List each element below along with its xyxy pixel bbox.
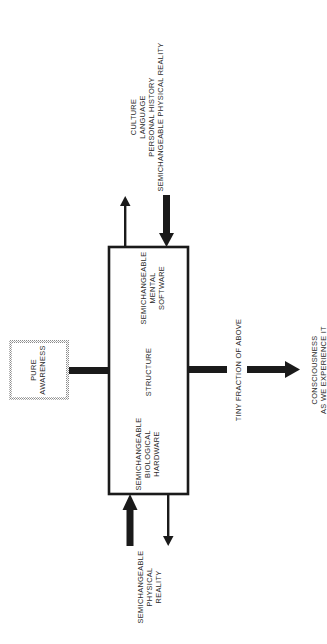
bottom-output-arrow <box>163 494 174 546</box>
top-input-arrow <box>159 195 174 247</box>
top-input-line-1: CULTURE <box>129 99 138 135</box>
consciousness-label: CONSCIOUSNESS AS WE EXPERIENCE IT <box>310 326 327 414</box>
top-input-line-3: PERSONAL HISTORY <box>147 77 156 156</box>
pure-awareness-line-2: AWARENESS <box>38 345 47 394</box>
mental-software-line-1: SEMICHANGEABLE <box>139 252 148 325</box>
bottom-input-line-3: REALITY <box>154 571 163 604</box>
bottom-input-line-1: SEMICHANGEABLE <box>136 551 145 624</box>
bottom-input-arrow <box>123 494 138 546</box>
bottom-input-label: SEMICHANGEABLE PHYSICAL REALITY <box>136 551 163 624</box>
top-input-line-2: LANGUAGE <box>138 95 147 138</box>
tiny-fraction-label: TINY FRACTION OF ABOVE <box>234 319 243 422</box>
mental-software-line-2: MENTAL <box>148 272 157 303</box>
output-stem <box>188 366 227 373</box>
biological-hardware-line-1: SEMICHANGEABLE <box>134 418 143 491</box>
biological-hardware-line-2: BIOLOGICAL <box>143 430 152 478</box>
consciousness-line-1: CONSCIOUSNESS <box>310 336 319 405</box>
consciousness-arrow <box>247 361 300 378</box>
biological-hardware-line-3: HARDWARE <box>152 431 161 476</box>
bottom-input-line-2: PHYSICAL <box>145 568 154 607</box>
structure-label: STRUCTURE <box>144 348 153 396</box>
pure-awareness-line-1: PURE <box>29 359 38 381</box>
top-input-label: CULTURE LANGUAGE PERSONAL HISTORY SEMICH… <box>129 42 165 191</box>
mental-software-line-3: SOFTWARE <box>157 266 166 310</box>
top-output-arrow <box>120 196 131 247</box>
pure-awareness-box: PURE AWARENESS <box>9 340 69 400</box>
consciousness-line-2: AS WE EXPERIENCE IT <box>319 326 327 414</box>
top-input-line-4: SEMICHANGEABLE PHYSICAL REALITY <box>156 42 165 191</box>
consciousness-diagram: PURE AWARENESS SEMICHANGEABLE MENTAL SOF… <box>0 0 327 644</box>
